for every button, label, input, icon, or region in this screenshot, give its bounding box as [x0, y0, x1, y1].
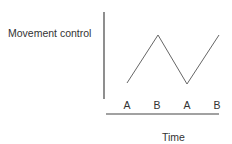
- x-tick-label: B: [210, 99, 224, 111]
- x-tick-label: A: [180, 99, 194, 111]
- chart-area: [0, 0, 232, 144]
- x-tick-label: A: [120, 99, 134, 111]
- x-tick-label: B: [150, 99, 164, 111]
- x-axis-label: Time: [162, 131, 185, 143]
- data-line: [127, 35, 219, 84]
